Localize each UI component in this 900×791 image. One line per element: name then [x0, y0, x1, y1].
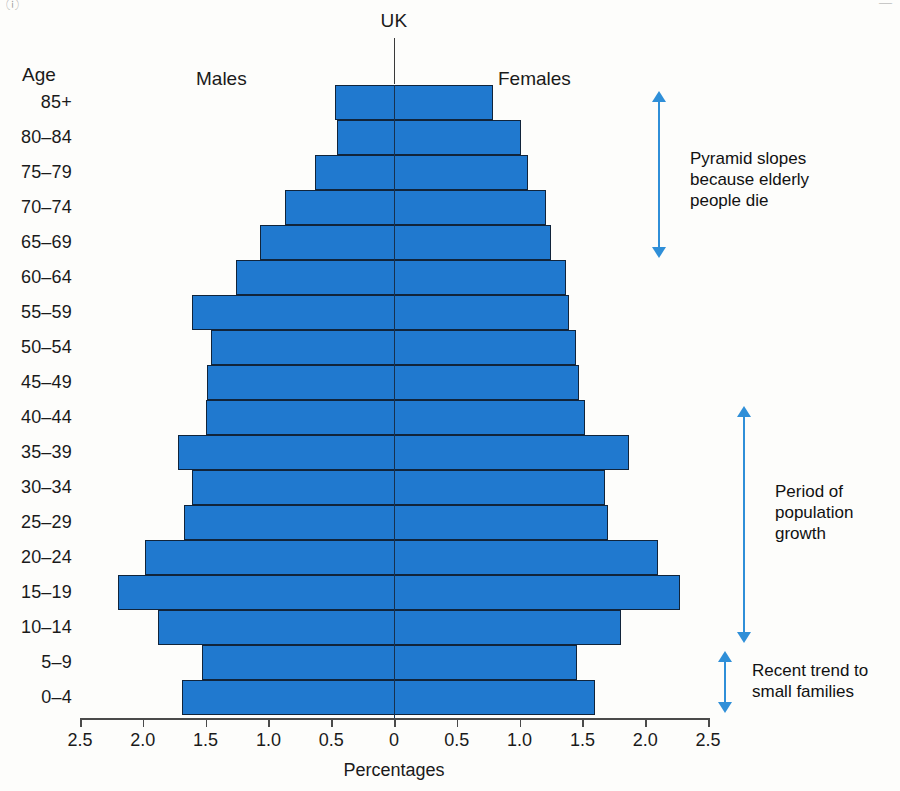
female-bar	[394, 330, 576, 365]
age-axis-label: Age	[22, 64, 56, 86]
arrow-head-down-icon	[737, 632, 751, 643]
age-group-label: 10–14	[21, 617, 72, 638]
age-group-label: 40–44	[21, 407, 72, 428]
x-axis-tick-label: 2.5	[67, 730, 92, 751]
female-bar	[394, 540, 658, 575]
chart-title: UK	[0, 10, 788, 32]
male-bar	[236, 260, 395, 295]
female-bar	[394, 470, 605, 505]
male-bar	[202, 645, 395, 680]
age-group-label: 60–64	[21, 267, 72, 288]
x-axis-tick	[708, 718, 710, 727]
female-bar	[394, 190, 546, 225]
female-bar	[394, 435, 629, 470]
x-axis-tick	[645, 718, 647, 727]
arrow-shaft	[743, 413, 745, 636]
male-bar	[192, 470, 395, 505]
female-bar	[394, 505, 608, 540]
male-bar	[118, 575, 395, 610]
age-group-label: 25–29	[21, 512, 72, 533]
x-axis-tick-label: 0.5	[444, 730, 469, 751]
x-axis-tick-label: 1.5	[570, 730, 595, 751]
x-axis-tick-label: 1.5	[193, 730, 218, 751]
arrow-shaft	[658, 98, 660, 251]
female-bar	[394, 120, 521, 155]
annotation-population-growth: Period ofpopulationgrowth	[775, 481, 853, 544]
x-axis-tick-label: 0	[389, 730, 399, 751]
female-bar	[394, 260, 566, 295]
age-group-label: 35–39	[21, 442, 72, 463]
male-bar	[207, 365, 395, 400]
female-bar	[394, 225, 551, 260]
male-bar	[285, 190, 395, 225]
population-pyramid-figure: ⓘ — UK Age Males Females 85+80–8475–7970…	[0, 0, 900, 791]
female-bar	[394, 610, 621, 645]
x-axis-tick-label: 0.5	[319, 730, 344, 751]
male-bar	[184, 505, 395, 540]
annotation-line: because elderly	[690, 169, 809, 190]
annotation-line: small families	[752, 681, 868, 702]
female-bar	[394, 575, 680, 610]
scan-mark-left: ⓘ	[6, 0, 19, 10]
male-bar	[192, 295, 395, 330]
double-headed-arrow-icon	[718, 651, 732, 713]
male-bar	[145, 540, 395, 575]
x-axis-tick	[331, 718, 333, 727]
age-group-label: 5–9	[41, 652, 72, 673]
annotation-line: people die	[690, 190, 809, 211]
arrow-head-down-icon	[718, 702, 732, 713]
male-bar	[178, 435, 395, 470]
male-bar	[260, 225, 395, 260]
scan-artifact-strip: ⓘ —	[0, 0, 900, 10]
age-group-label: 50–54	[21, 337, 72, 358]
age-group-label: 70–74	[21, 197, 72, 218]
chart-title-leader-line	[394, 38, 395, 84]
x-axis-tick	[582, 718, 584, 727]
male-bar	[335, 85, 395, 120]
x-axis-tick-label: 2.0	[130, 730, 155, 751]
x-axis-title: Percentages	[0, 760, 788, 781]
age-group-label: 55–59	[21, 302, 72, 323]
age-group-label: 0–4	[41, 687, 72, 708]
male-bar	[158, 610, 395, 645]
annotation-line: growth	[775, 523, 853, 544]
age-group-label: 80–84	[21, 127, 72, 148]
annotation-line: Period of	[775, 481, 853, 502]
x-axis-tick-label: 1.0	[256, 730, 281, 751]
female-bar	[394, 85, 493, 120]
x-axis-tick	[394, 718, 396, 727]
male-bar	[206, 400, 395, 435]
female-bar	[394, 680, 595, 715]
centre-axis-line	[394, 85, 395, 718]
annotation-pyramid-slopes: Pyramid slopesbecause elderlypeople die	[690, 148, 809, 211]
age-group-labels: 85+80–8475–7970–7465–6960–6455–5950–5445…	[0, 85, 72, 718]
female-bar	[394, 400, 585, 435]
arrow-head-down-icon	[652, 247, 666, 258]
male-bar	[211, 330, 395, 365]
female-bar	[394, 155, 528, 190]
double-headed-arrow-icon	[737, 406, 751, 643]
x-axis-tick	[520, 718, 522, 727]
x-axis-tick	[457, 718, 459, 727]
age-group-label: 85+	[41, 92, 72, 113]
male-bar	[337, 120, 395, 155]
female-bar	[394, 295, 569, 330]
annotation-line: Recent trend to	[752, 660, 868, 681]
x-axis-tick-label: 2.5	[695, 730, 720, 751]
double-headed-arrow-icon	[652, 91, 666, 258]
age-group-label: 20–24	[21, 547, 72, 568]
age-group-label: 15–19	[21, 582, 72, 603]
x-axis-tick	[268, 718, 270, 727]
age-group-label: 30–34	[21, 477, 72, 498]
x-axis-tick	[143, 718, 145, 727]
age-group-label: 75–79	[21, 162, 72, 183]
x-axis-tick	[80, 718, 82, 727]
arrow-shaft	[724, 658, 726, 706]
annotation-line: Pyramid slopes	[690, 148, 809, 169]
x-axis-tick-label: 1.0	[507, 730, 532, 751]
x-axis-tick	[206, 718, 208, 727]
male-bar	[182, 680, 395, 715]
age-group-label: 65–69	[21, 232, 72, 253]
female-bar	[394, 365, 579, 400]
male-bar	[315, 155, 395, 190]
